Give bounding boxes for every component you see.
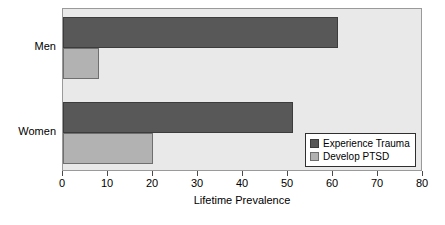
category-label-women: Women xyxy=(0,126,56,137)
x-tick-label: 0 xyxy=(59,177,65,189)
bar-chart: MenWomen 01020304050607080 Lifetime Prev… xyxy=(0,0,445,225)
x-tick xyxy=(287,171,288,176)
x-tick xyxy=(152,171,153,176)
x-tick-label: 10 xyxy=(101,177,113,189)
x-tick xyxy=(62,171,63,176)
x-tick xyxy=(197,171,198,176)
x-tick xyxy=(107,171,108,176)
x-tick-label: 40 xyxy=(236,177,248,189)
legend-item-develop-ptsd: Develop PTSD xyxy=(310,150,410,163)
legend-swatch-icon xyxy=(310,152,319,161)
x-tick-label: 60 xyxy=(326,177,338,189)
x-tick-label: 20 xyxy=(146,177,158,189)
x-tick-label: 50 xyxy=(281,177,293,189)
x-tick xyxy=(422,171,423,176)
x-tick xyxy=(377,171,378,176)
x-tick-label: 80 xyxy=(416,177,428,189)
x-axis: 01020304050607080 Lifetime Prevalence xyxy=(62,171,422,225)
x-tick xyxy=(242,171,243,176)
x-tick xyxy=(332,171,333,176)
legend-label: Experience Trauma xyxy=(323,138,410,149)
legend-label: Develop PTSD xyxy=(323,151,389,162)
chart-legend: Experience TraumaDevelop PTSD xyxy=(305,133,416,167)
category-label-men: Men xyxy=(0,41,56,52)
x-axis-title: Lifetime Prevalence xyxy=(62,194,422,206)
legend-item-experience-trauma: Experience Trauma xyxy=(310,137,410,150)
legend-swatch-icon xyxy=(310,139,319,148)
x-tick-label: 30 xyxy=(191,177,203,189)
x-tick-label: 70 xyxy=(371,177,383,189)
